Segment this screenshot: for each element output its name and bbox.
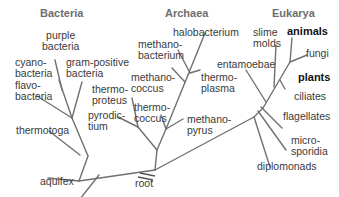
- label-halobacterium: halobacterium: [173, 27, 239, 38]
- label-slime-molds: slime molds: [253, 27, 281, 49]
- label-flagellates: flagellates: [283, 111, 330, 122]
- label-ciliates: ciliates: [294, 91, 326, 102]
- branch-halobacterium: [188, 33, 205, 75]
- label-microsporidia: micro- sporidia: [291, 135, 328, 157]
- branch-entamoebae: [246, 70, 266, 102]
- domain-heading-archaea: Archaea: [165, 7, 208, 19]
- branch-ciliates: [280, 80, 285, 89]
- branch-thermoplasma: [190, 70, 200, 73]
- label-plants: plants: [298, 72, 330, 83]
- domain-heading-bacteria: Bacteria: [40, 7, 83, 19]
- label-entamoebae: entamoebae: [217, 59, 275, 70]
- branch-archaea-trunk: [155, 150, 157, 170]
- label-gram-positive-bacteria: gram-positive bacteria: [66, 57, 129, 79]
- label-methanococcus: methano- coccus: [131, 72, 175, 94]
- label-methanobacterium: methano- bacterium: [138, 39, 184, 61]
- phylogenetic-tree-diagram: Bacteria Archaea Eukarya purple bacteria…: [0, 0, 339, 197]
- branch-euryarchaeota: [157, 129, 166, 150]
- label-animals: animals: [287, 26, 328, 37]
- branch-gram-positive: [72, 82, 82, 118]
- branch-bacteria-upper: [79, 156, 88, 181]
- label-aquifex: aquifex: [40, 176, 74, 187]
- branch-animals: [290, 38, 292, 62]
- label-methanopyrus: methano- pyrus: [187, 114, 231, 136]
- label-thermoplasma: thermo- plasma: [201, 72, 237, 94]
- label-thermotoga: thermotoga: [16, 125, 69, 136]
- label-diplomonads: diplomonads: [257, 161, 317, 172]
- branch-purple: [55, 60, 62, 90]
- branch-fungi: [290, 55, 307, 62]
- branch-aquifex: [80, 175, 99, 197]
- label-purple-bacteria: purple bacteria: [42, 30, 79, 52]
- label-fungi: fungi: [306, 48, 329, 59]
- label-root: root: [135, 178, 153, 189]
- label-flavobacteria: flavo- bacteria: [15, 80, 52, 102]
- label-thermococcus: thermo- coccus: [134, 102, 170, 124]
- label-thermoproteus: thermo- proteus: [92, 84, 128, 106]
- domain-heading-eukarya: Eukarya: [272, 7, 315, 19]
- branch-flagellates: [261, 107, 282, 128]
- branch-crenarchaeota: [138, 127, 157, 150]
- label-pyrodictium: pyrodic- tium: [88, 110, 125, 132]
- label-cyanobacteria: cyano- bacteria: [15, 57, 52, 79]
